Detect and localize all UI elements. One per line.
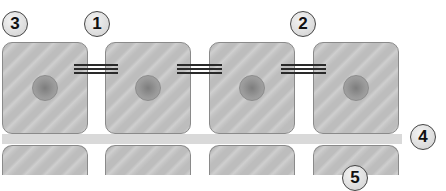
label-2: 2 xyxy=(290,11,316,37)
nucleus xyxy=(239,75,265,101)
cell-junction-1 xyxy=(74,64,118,76)
nucleus xyxy=(135,75,161,101)
nucleus xyxy=(343,75,369,101)
basement-membrane xyxy=(2,134,402,144)
label-4: 4 xyxy=(410,124,436,150)
cell-2 xyxy=(105,42,191,134)
cell-4 xyxy=(313,42,399,134)
label-5: 5 xyxy=(342,165,368,191)
cell-junction-2 xyxy=(177,64,222,76)
cell-3 xyxy=(209,42,295,134)
cell-1 xyxy=(2,42,88,134)
label-1: 1 xyxy=(84,11,110,37)
label-3: 3 xyxy=(2,11,28,37)
cell-junction-3 xyxy=(281,64,326,76)
nucleus xyxy=(32,75,58,101)
lower-cell-1 xyxy=(2,145,88,175)
lower-cell-2 xyxy=(105,145,191,175)
lower-cell-3 xyxy=(209,145,295,175)
